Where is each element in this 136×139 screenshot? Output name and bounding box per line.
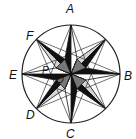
star-diagram: A B C D E F P O: [0, 0, 136, 139]
label-p: P: [42, 65, 49, 76]
label-b: B: [124, 69, 132, 83]
label-f: F: [26, 29, 34, 43]
label-d: D: [26, 108, 35, 122]
label-o: O: [56, 74, 64, 85]
label-a: A: [65, 2, 74, 16]
label-e: E: [9, 68, 18, 82]
center-point: [69, 72, 73, 76]
label-c: C: [66, 127, 75, 139]
